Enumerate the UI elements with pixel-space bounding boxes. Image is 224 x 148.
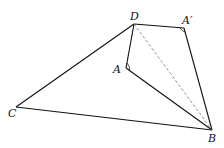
segment-DB-dashed (134, 24, 212, 130)
segment-CB (16, 107, 212, 130)
segment-DA-prime (134, 24, 184, 28)
segment-A-prime-B (184, 28, 212, 130)
geometry-diagram: D A′ A C B (0, 0, 224, 148)
label-A: A (113, 64, 121, 75)
label-A-prime: A′ (182, 15, 192, 26)
label-D: D (130, 11, 139, 22)
label-C: C (8, 108, 16, 119)
segment-AB (126, 68, 212, 130)
segment-DA (126, 24, 134, 68)
label-B: B (208, 133, 216, 144)
